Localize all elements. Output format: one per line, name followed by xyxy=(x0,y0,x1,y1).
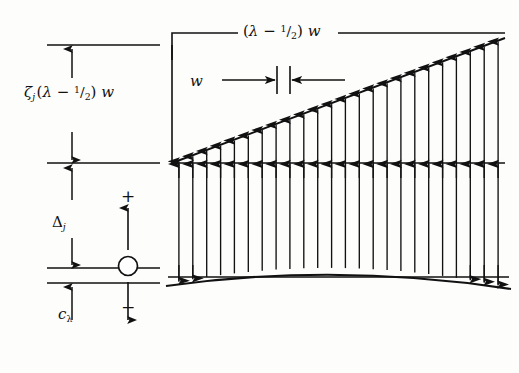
top-dim-left-bracket xyxy=(172,33,238,60)
figure-root: (λ − 1/2) w ζj (λ − 1/2) w w Δj cλ + − xyxy=(0,0,519,373)
label-panel-width: w xyxy=(190,72,203,90)
label-top-dimension: (λ − 1/2) w xyxy=(243,22,321,41)
load-diagram xyxy=(166,38,511,289)
hinge-circle xyxy=(119,257,138,276)
panel-width-indicator xyxy=(222,66,345,94)
label-sign-positive: + xyxy=(121,186,135,206)
label-c-lambda: cλ xyxy=(58,305,72,324)
label-delta: Δj xyxy=(52,213,66,232)
label-sign-negative: − xyxy=(121,297,135,317)
label-zeta-dimension: ζj (λ − 1/2) w xyxy=(24,83,114,102)
upper-envelope-line xyxy=(172,38,505,163)
diagram-canvas xyxy=(0,0,519,373)
